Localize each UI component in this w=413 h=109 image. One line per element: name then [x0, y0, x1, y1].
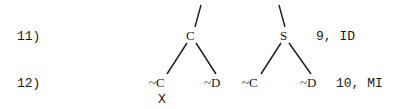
node-s: S	[280, 29, 287, 42]
leaf-not-d-2: ~D	[300, 76, 316, 89]
justification-12: 10, MI	[336, 77, 383, 90]
leaf-not-d-1: ~D	[204, 76, 220, 89]
closed-branch-marker: X	[158, 93, 166, 106]
line-number-11: 11)	[17, 30, 40, 43]
line-number-12: 12)	[17, 77, 40, 90]
leaf-not-c-1: ~C	[149, 76, 165, 89]
justification-11: 9, ID	[316, 30, 355, 43]
tree-branches	[0, 0, 413, 109]
node-c: C	[186, 29, 195, 42]
leaf-not-c-2: ~C	[242, 76, 258, 89]
